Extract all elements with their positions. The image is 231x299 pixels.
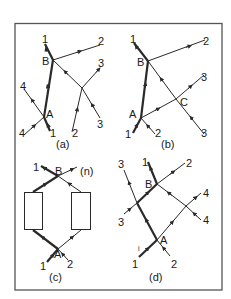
label-d-2-bottom: 2 <box>171 258 177 270</box>
panel-a-labels: 1 2 3 4 B A 3 4 1 2 (a) <box>19 33 104 150</box>
box-right <box>72 193 91 230</box>
label-d-tick: i <box>138 245 140 252</box>
panel-b <box>133 40 205 134</box>
label-b-1-top: 1 <box>130 33 136 45</box>
line-3bot-J <box>82 88 100 118</box>
label-b-node-A: A <box>129 108 137 120</box>
line-X-3top <box>124 170 137 203</box>
label-c-1-bottom: 1 <box>40 260 46 272</box>
line-A-C <box>141 99 176 118</box>
label-c-node-B: B <box>55 165 62 177</box>
label-a-2-top: 2 <box>98 35 104 47</box>
line-B-2 <box>148 40 205 61</box>
label-d-3-bottom: 3 <box>118 216 124 228</box>
label-c-2-bottom: 2 <box>67 258 73 270</box>
line-3bot-X <box>124 203 137 214</box>
caption-c: (c) <box>49 271 62 283</box>
label-a-4-top: 4 <box>20 80 26 92</box>
box-left <box>25 193 43 230</box>
caption-d: (d) <box>149 271 162 283</box>
label-b-node-C: C <box>180 96 188 108</box>
label-a-2-bottom: 2 <box>72 127 78 139</box>
label-d-2-top: 2 <box>186 157 192 169</box>
panel-d-labels: 3 1 2 B 4 3 4 A i 1 2 (d) <box>118 156 209 283</box>
label-d-node-A: A <box>160 234 168 246</box>
label-d-4-top: 4 <box>203 187 209 199</box>
label-b-node-B: B <box>137 56 144 68</box>
caption-a: (a) <box>56 138 69 150</box>
label-b-3-top: 3 <box>201 71 207 83</box>
label-c-1-top: 1 <box>33 161 39 173</box>
label-c-node-A: A <box>54 248 62 260</box>
label-c-n: (n) <box>80 165 93 177</box>
caption-b: (b) <box>161 138 174 150</box>
label-b-2-top: 2 <box>203 35 209 47</box>
panel-b-labels: 1 2 B 3 C A 1 2 3 (b) <box>125 33 209 150</box>
label-a-1-top: 1 <box>42 33 48 45</box>
label-a-node-B: B <box>42 55 49 67</box>
feynman-diagram-figure: 1 2 3 4 B A 3 4 1 2 (a) 1 <box>0 0 231 299</box>
label-d-3-top: 3 <box>118 158 124 170</box>
label-d-1-bottom: 1 <box>132 258 138 270</box>
label-d-4-bottom: 4 <box>203 214 209 226</box>
label-d-node-B: B <box>145 178 152 190</box>
panel-a <box>24 44 100 135</box>
label-d-1-top: 1 <box>142 156 148 168</box>
line-4bot-J <box>186 206 201 220</box>
label-a-3-bottom: 3 <box>97 118 103 130</box>
label-a-node-A: A <box>46 108 54 120</box>
label-a-3-top: 3 <box>98 57 104 69</box>
label-b-3-bottom: 3 <box>201 127 207 139</box>
label-b-1-bottom: 1 <box>125 128 131 140</box>
label-a-4-bottom: 4 <box>19 127 25 139</box>
